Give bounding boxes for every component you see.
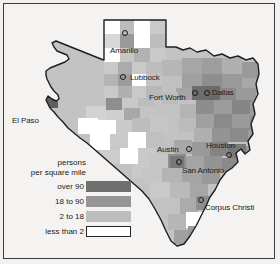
city-dot-fort-worth (192, 90, 198, 96)
legend-swatch-over-90 (86, 181, 131, 192)
city-dot-houston (226, 152, 232, 158)
city-dot-dallas (204, 90, 210, 96)
legend-label-18-to-90: 18 to 90 (18, 197, 86, 206)
legend-title-line2: per square mile (18, 168, 86, 178)
legend-title-line1: persons (18, 158, 86, 168)
map-figure: Amarillo Lubbock Fort Worth Dallas El Pa… (0, 0, 280, 264)
city-label-amarillo: Amarillo (110, 46, 138, 55)
legend-swatch-2-to-18 (86, 211, 131, 222)
legend-row-over-90: over 90 (18, 180, 131, 193)
city-label-san-antonio: San Antonio (182, 166, 224, 175)
legend-row-18-to-90: 18 to 90 (18, 195, 131, 208)
city-label-fort-worth: Fort Worth (149, 93, 186, 102)
city-label-el-paso: El Paso (12, 116, 39, 125)
legend-label-over-90: over 90 (18, 182, 86, 191)
city-dot-corpus-christi (198, 197, 204, 203)
legend-row-less-than-2: less than 2 (18, 225, 131, 238)
legend-label-2-to-18: 2 to 18 (18, 212, 86, 221)
city-label-austin: Austin (157, 145, 179, 154)
city-label-houston: Houston (206, 141, 235, 150)
legend-swatch-18-to-90 (86, 196, 131, 207)
legend: persons per square mile over 90 18 to 90… (18, 158, 131, 238)
city-label-lubbock: Lubbock (130, 73, 160, 82)
legend-label-less-than-2: less than 2 (18, 227, 86, 236)
city-dot-lubbock (120, 74, 126, 80)
city-label-corpus-christi: Corpus Christi (205, 203, 254, 212)
city-dot-san-antonio (176, 159, 182, 165)
city-dot-austin (186, 146, 192, 152)
city-dot-amarillo (122, 30, 128, 36)
legend-swatch-less-than-2 (86, 226, 131, 237)
legend-row-2-to-18: 2 to 18 (18, 210, 131, 223)
city-label-dallas: Dallas (212, 88, 234, 97)
